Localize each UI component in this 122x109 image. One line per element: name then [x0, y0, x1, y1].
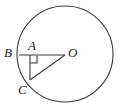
- point-label-b: B: [4, 46, 12, 59]
- point-label-a: A: [28, 39, 36, 52]
- geometry-figure: B A O C: [0, 0, 122, 109]
- segment-co: [30, 55, 65, 80]
- point-label-o: O: [68, 46, 77, 59]
- right-angle-marker-icon: [30, 56, 37, 63]
- circle-shape: [17, 6, 113, 102]
- point-label-c: C: [18, 83, 27, 96]
